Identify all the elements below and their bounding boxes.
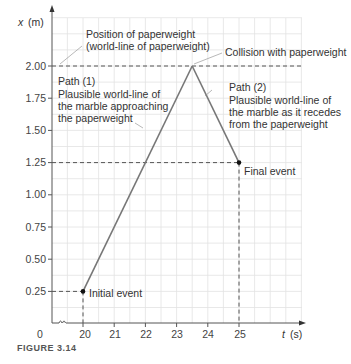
axis-break-icon bbox=[59, 321, 66, 323]
x-axis-var: t bbox=[282, 328, 286, 340]
svg-text:20: 20 bbox=[79, 328, 91, 340]
y-axis-var: x bbox=[17, 16, 24, 28]
path-2-desc-1: Plausible world-line of bbox=[229, 94, 331, 106]
final-event-label: Final event bbox=[244, 165, 295, 177]
x-axis-unit: (s) bbox=[290, 328, 302, 340]
path-1-desc-1: Plausible world-line of bbox=[58, 88, 160, 100]
path-2-title: Path (2) bbox=[229, 81, 266, 93]
svg-text:1.00: 1.00 bbox=[26, 188, 47, 200]
svg-text:0.50: 0.50 bbox=[26, 253, 47, 265]
x-tick-labels: 0 20 21 22 23 24 25 bbox=[37, 328, 246, 340]
svg-text:1.50: 1.50 bbox=[26, 124, 47, 136]
svg-text:0: 0 bbox=[37, 328, 43, 340]
svg-text:0.75: 0.75 bbox=[26, 221, 47, 233]
collision-label: Collision with paperweight bbox=[225, 46, 346, 58]
paperweight-label-2: (world-line of paperweight) bbox=[86, 40, 210, 52]
initial-event-label: Initial event bbox=[89, 287, 142, 299]
paperweight-label-1: Position of paperweight bbox=[86, 28, 195, 40]
final-event-dot bbox=[237, 160, 242, 165]
svg-text:21: 21 bbox=[109, 328, 121, 340]
svg-text:1.75: 1.75 bbox=[26, 92, 47, 104]
path-2-desc-2: the marble as it recedes bbox=[229, 106, 341, 118]
path-1-title: Path (1) bbox=[58, 75, 95, 87]
y-axis-arrow-icon bbox=[50, 5, 55, 12]
path-2-desc-3: from the paperweight bbox=[229, 118, 328, 130]
x-axis-arrow-icon bbox=[299, 321, 306, 326]
path-1-desc-3: the paperweight bbox=[58, 112, 133, 124]
x-axis bbox=[52, 321, 306, 328]
svg-text:2.00: 2.00 bbox=[26, 60, 47, 72]
svg-text:0.25: 0.25 bbox=[26, 285, 47, 297]
initial-event-dot bbox=[81, 289, 86, 294]
y-tick-labels: 2.00 1.75 1.50 1.25 1.00 0.75 0.50 0.25 bbox=[26, 60, 47, 297]
svg-text:25: 25 bbox=[234, 328, 246, 340]
svg-text:22: 22 bbox=[140, 328, 152, 340]
figure-caption: FIGURE 3.14 bbox=[17, 343, 77, 353]
spacetime-diagram: 2.00 1.75 1.50 1.25 1.00 0.75 0.50 0.25 … bbox=[0, 0, 351, 364]
svg-text:23: 23 bbox=[171, 328, 183, 340]
path-1-desc-2: the marble approaching bbox=[58, 100, 168, 112]
svg-text:1.25: 1.25 bbox=[26, 156, 47, 168]
y-axis-unit: (m) bbox=[28, 16, 44, 28]
svg-text:24: 24 bbox=[202, 328, 214, 340]
